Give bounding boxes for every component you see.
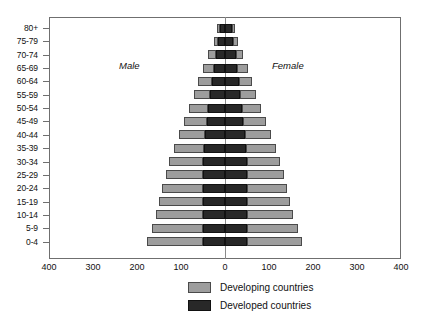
- bar-segment-female-developing: [247, 184, 287, 193]
- bar-segment-male-developing: [214, 37, 218, 46]
- legend-swatch: [188, 300, 211, 311]
- bar-row: [49, 64, 401, 73]
- male-side-label: Male: [119, 60, 140, 71]
- bar-segment-male-developed: [204, 144, 225, 153]
- bar-row: [49, 197, 401, 206]
- x-axis: 4003002001000100200300400: [0, 262, 431, 276]
- bar-row: [49, 210, 401, 219]
- bar-segment-male-developing: [194, 90, 210, 99]
- bar-segment-female-developed: [225, 24, 232, 33]
- x-axis-tick-label: 100: [173, 262, 188, 272]
- bar-segment-female-developing: [240, 90, 256, 99]
- y-axis-tick-label: 35-39: [17, 144, 38, 153]
- bar-segment-female-developing: [246, 144, 275, 153]
- y-axis-tick-label: 25-29: [17, 170, 38, 179]
- bar-row: [49, 184, 401, 193]
- bar-segment-male-developing: [169, 157, 203, 166]
- bar-row: [49, 144, 401, 153]
- bar-row: [49, 237, 401, 246]
- x-axis-tick-label: 300: [85, 262, 100, 272]
- bar-segment-male-developed: [208, 104, 225, 113]
- legend-item: Developing countries: [188, 281, 313, 294]
- bar-row: [49, 90, 401, 99]
- bar-segment-female-developed: [225, 104, 242, 113]
- bar-segment-female-developed: [225, 64, 237, 73]
- y-axis-tick-label: 5-9: [26, 224, 38, 233]
- bar-segment-male-developing: [179, 130, 205, 139]
- y-axis-tick-label: 65-69: [17, 64, 38, 73]
- legend-label: Developing countries: [220, 282, 313, 293]
- bar-segment-female-developing: [232, 24, 235, 33]
- bar-row: [49, 157, 401, 166]
- y-axis-tick-label: 15-19: [17, 197, 38, 206]
- bar-segment-female-developing: [247, 170, 284, 179]
- bar-segment-female-developed: [225, 210, 247, 219]
- bar-segment-female-developed: [225, 184, 247, 193]
- bar-segment-female-developed: [225, 144, 246, 153]
- bar-segment-female-developing: [247, 157, 280, 166]
- bar-segment-female-developing: [236, 50, 243, 59]
- bar-segment-male-developed: [214, 64, 225, 73]
- bar-segment-female-developing: [247, 224, 298, 233]
- bar-segment-male-developing: [147, 237, 203, 246]
- population-pyramid-chart: 80+75-7970-7465-6960-6455-5950-5445-4940…: [0, 0, 431, 333]
- bar-segment-male-developed: [216, 50, 225, 59]
- bar-segment-female-developed: [225, 90, 240, 99]
- bar-segment-male-developed: [203, 237, 225, 246]
- y-axis-tick-label: 50-54: [17, 104, 38, 113]
- bar-segment-female-developed: [225, 50, 236, 59]
- bar-segment-female-developed: [225, 117, 243, 126]
- bar-segment-male-developed: [203, 197, 225, 206]
- bar-segment-female-developed: [225, 197, 247, 206]
- y-axis-tick-label: 80+: [24, 24, 38, 33]
- y-axis-tick-label: 0-4: [26, 237, 38, 246]
- y-axis-tick-label: 70-74: [17, 50, 38, 59]
- bar-segment-female-developing: [247, 210, 293, 219]
- y-axis-tick-label: 10-14: [17, 210, 38, 219]
- chart-legend: Developing countriesDeveloped countries: [0, 281, 431, 321]
- bar-segment-female-developed: [225, 130, 245, 139]
- bar-segment-male-developed: [207, 117, 225, 126]
- bar-segment-female-developing: [239, 77, 252, 86]
- bar-segment-male-developing: [159, 197, 203, 206]
- y-axis-tick-label: 55-59: [17, 90, 38, 99]
- y-axis-tick-label: 40-44: [17, 130, 38, 139]
- bar-row: [49, 24, 401, 33]
- bar-segment-female-developing: [245, 130, 271, 139]
- bar-segment-male-developed: [203, 184, 225, 193]
- bar-segment-male-developing: [152, 224, 203, 233]
- bar-segment-female-developing: [237, 64, 248, 73]
- x-axis-tick-label: 0: [222, 262, 227, 272]
- x-axis-tick-label: 200: [305, 262, 320, 272]
- bar-row: [49, 77, 401, 86]
- bar-segment-male-developing: [156, 210, 203, 219]
- bar-segment-male-developing: [184, 117, 207, 126]
- bar-segment-male-developing: [203, 64, 214, 73]
- bar-segment-female-developing: [243, 117, 265, 126]
- bar-segment-male-developing: [198, 77, 212, 86]
- x-axis-tick-label: 400: [393, 262, 408, 272]
- bar-segment-female-developed: [225, 77, 239, 86]
- bar-row: [49, 117, 401, 126]
- bar-row: [49, 50, 401, 59]
- bar-row: [49, 37, 401, 46]
- bar-row: [49, 224, 401, 233]
- bar-row: [49, 170, 401, 179]
- y-axis: 80+75-7970-7465-6960-6455-5950-5445-4940…: [0, 17, 49, 260]
- x-axis-tick-label: 100: [261, 262, 276, 272]
- bar-segment-male-developed: [203, 210, 225, 219]
- bar-segment-female-developed: [225, 170, 247, 179]
- bar-segment-male-developed: [210, 90, 225, 99]
- bar-segment-male-developing: [189, 104, 208, 113]
- bar-segment-female-developing: [247, 237, 302, 246]
- bar-segment-female-developed: [225, 157, 247, 166]
- bar-segment-male-developed: [203, 157, 225, 166]
- bars-layer: [49, 17, 401, 259]
- bar-segment-female-developing: [247, 197, 290, 206]
- x-axis-tick-label: 400: [41, 262, 56, 272]
- x-axis-tick-label: 200: [129, 262, 144, 272]
- legend-label: Developed countries: [220, 300, 311, 311]
- bar-row: [49, 104, 401, 113]
- y-axis-tick-label: 20-24: [17, 184, 38, 193]
- bar-segment-female-developing: [233, 37, 238, 46]
